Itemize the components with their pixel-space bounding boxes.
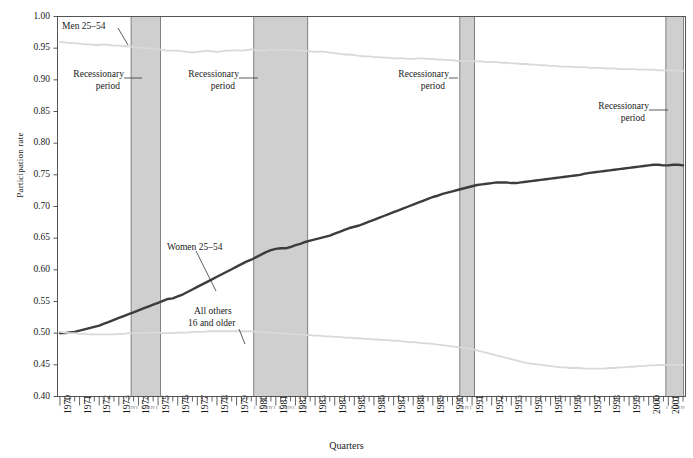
men-annotation: Men 25–54: [62, 20, 106, 32]
all-others-annotation-line1: All others: [194, 305, 232, 317]
recession-annotation-2-line1: Recessionary: [163, 68, 239, 80]
recession-annotation-1-line1: Recessionary: [48, 68, 124, 80]
recession-annotation-4-line2: period: [573, 112, 645, 124]
figure: Participation rate Quarters 0.400.450.50…: [0, 0, 693, 458]
recession-annotation-3-line1: Recessionary: [373, 68, 449, 80]
recession-band: [254, 17, 308, 397]
recession-annotation-4-line1: Recessionary: [573, 100, 649, 112]
recession-annotation-2-line2: period: [163, 80, 235, 92]
women-annotation: Women 25–54: [167, 241, 222, 253]
recession-band: [666, 17, 684, 397]
all-others-annotation-line2: 16 and older: [188, 317, 236, 329]
recession-annotation-1-line2: period: [48, 80, 120, 92]
recession-band: [460, 17, 475, 397]
x-tick-marks: [60, 397, 683, 406]
recession-annotation-3-line2: period: [373, 80, 445, 92]
recession-band: [131, 17, 160, 397]
leader-line: [118, 28, 128, 45]
